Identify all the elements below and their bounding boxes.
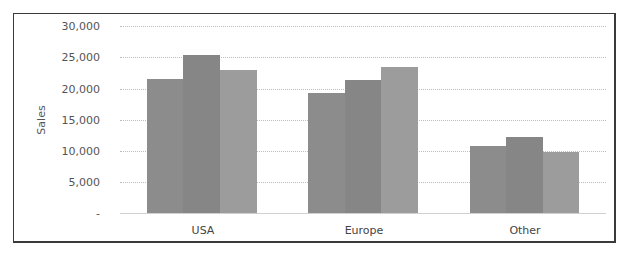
bar-other-series-2	[506, 137, 543, 213]
bar-usa-series-1	[147, 79, 184, 213]
y-tick-label: 15,000	[62, 114, 101, 127]
x-category-label: Other	[509, 224, 540, 237]
bar-europe-series-2	[345, 80, 382, 213]
bar-usa-series-3	[220, 70, 257, 213]
gridline	[120, 26, 606, 27]
y-axis-title: Sales	[35, 105, 48, 134]
y-tick-label: -	[96, 207, 100, 220]
bar-europe-series-1	[308, 93, 345, 213]
x-axis-baseline	[120, 213, 606, 214]
y-tick-label: 10,000	[62, 145, 101, 158]
bar-other-series-3	[543, 152, 580, 213]
bar-europe-series-3	[381, 67, 418, 214]
x-category-label: USA	[192, 224, 215, 237]
y-tick-label: 25,000	[62, 51, 101, 64]
bar-usa-series-2	[183, 55, 220, 213]
y-tick-label: 30,000	[62, 20, 101, 33]
x-category-label: Europe	[345, 224, 384, 237]
bar-other-series-1	[470, 146, 507, 213]
y-tick-label: 5,000	[69, 176, 101, 189]
y-tick-label: 20,000	[62, 83, 101, 96]
